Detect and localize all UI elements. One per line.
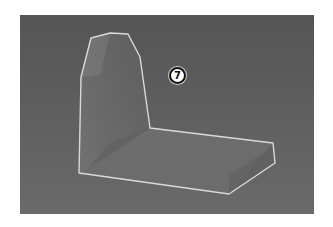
3d-viewport[interactable]: 7 [20,15,314,214]
model-drawing [20,15,314,214]
callout-badge: 7 [169,67,186,84]
callout-number: 7 [174,71,181,81]
